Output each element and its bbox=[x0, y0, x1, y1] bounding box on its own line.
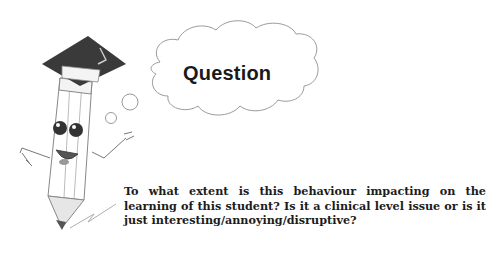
thought-bubble-large bbox=[122, 94, 138, 110]
left-hand bbox=[22, 153, 32, 166]
question-text: To what extent is this behaviour impacti… bbox=[124, 184, 486, 228]
right-arm bbox=[92, 138, 126, 158]
pencil-character bbox=[20, 36, 134, 230]
slide: Question To what extent is this behaviou… bbox=[0, 0, 495, 258]
pencil-body bbox=[48, 78, 92, 200]
right-eye bbox=[69, 123, 83, 137]
thought-bubble-small bbox=[106, 113, 117, 124]
cloud-label: Question bbox=[183, 62, 273, 85]
left-eye bbox=[53, 121, 67, 135]
